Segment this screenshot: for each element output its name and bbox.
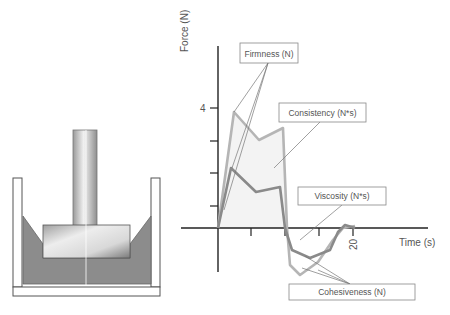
apparatus-diagram <box>13 130 160 296</box>
compression-disc <box>43 225 130 258</box>
viscosity-label: Viscosity (N*s) <box>314 191 369 201</box>
force-time-chart: Firmness (N) Consistency (N*s) Viscosity… <box>179 10 435 300</box>
container-left-wall <box>13 178 22 287</box>
figure-canvas: Firmness (N) Consistency (N*s) Viscosity… <box>0 0 450 315</box>
plunger-shaft <box>73 130 97 226</box>
viscosity-annotation: Viscosity (N*s) <box>298 187 386 205</box>
y-ticks <box>210 108 218 206</box>
cohesiveness-label: Cohesiveness (N) <box>318 287 386 297</box>
y-tick-label-4: 4 <box>200 103 206 114</box>
firmness-annotation: Firmness (N) <box>240 43 298 63</box>
y-axis-label: Force (N) <box>179 10 190 52</box>
container-base <box>13 287 160 296</box>
x-axis-label: Time (s) <box>399 237 435 248</box>
container-right-wall <box>151 178 160 287</box>
cohesiveness-annotation: Cohesiveness (N) <box>289 284 415 300</box>
consistency-label: Consistency (N*s) <box>288 108 356 118</box>
consistency-annotation: Consistency (N*s) <box>279 103 366 122</box>
firmness-label: Firmness (N) <box>244 49 293 59</box>
consistency-area <box>218 112 287 228</box>
x-tick-label-20: 20 <box>348 238 359 250</box>
